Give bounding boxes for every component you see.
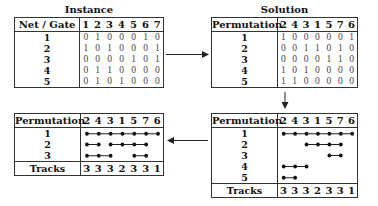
solution-row: 51100000	[212, 76, 358, 88]
instance-col-header: 1	[80, 18, 92, 32]
packed-interval-dot	[97, 143, 101, 147]
packed-interval-dot	[97, 132, 101, 136]
packed-col-header: 4	[92, 114, 104, 128]
intervals-track-count: 3	[323, 184, 334, 198]
packed-tracks-label: Tracks	[15, 162, 81, 176]
packed-segments	[81, 150, 164, 162]
solution-row: 20011010	[212, 43, 358, 54]
arrow-right-icon	[166, 50, 210, 60]
solution-cell: 0	[312, 65, 323, 76]
instance-row-label: 3	[15, 54, 80, 65]
instance-cell: 1	[104, 65, 116, 76]
instance-cell: 0	[128, 43, 140, 54]
intervals-interval-dot	[293, 165, 297, 169]
packed-interval-dot	[109, 132, 113, 136]
solution-cell: 0	[300, 54, 311, 65]
packed-interval-dot	[121, 132, 125, 136]
packed-interval-dot	[121, 143, 125, 147]
instance-cell: 0	[140, 76, 152, 88]
packed-interval-dot	[85, 154, 89, 158]
solution-cell: 1	[335, 54, 346, 65]
solution-cell: 1	[300, 65, 311, 76]
instance-cell: 1	[140, 32, 152, 44]
instance-col-header: 2	[92, 18, 104, 32]
solution-cell: 0	[289, 32, 300, 44]
solution-col-header: 5	[323, 18, 334, 32]
arrow-left-icon	[167, 136, 209, 146]
packed-interval-dot	[132, 154, 136, 158]
instance-cell: 0	[152, 32, 164, 44]
instance-cell: 0	[116, 43, 128, 54]
instance-cell: 0	[152, 76, 164, 88]
intervals-track-count: 3	[289, 184, 300, 198]
intervals-interval-dot	[327, 143, 331, 147]
packed-row: 3	[15, 150, 164, 162]
packed-row-header: Permutation	[15, 114, 81, 128]
instance-cell: 0	[128, 65, 140, 76]
packed-track-count: 3	[140, 162, 152, 176]
solution-cell: 0	[323, 76, 334, 88]
instance-col-header: 5	[128, 18, 140, 32]
packed-interval-dot	[156, 132, 160, 136]
intervals-interval-dot	[316, 132, 320, 136]
intervals-header-row: Permutation 2431576	[212, 114, 358, 128]
instance-row-header: Net / Gate	[15, 18, 80, 32]
solution-cell: 0	[289, 43, 300, 54]
instance-cell: 0	[80, 65, 92, 76]
intervals-row-label: 2	[212, 139, 278, 150]
solution-col-header: 2	[278, 18, 289, 32]
packed-col-header: 3	[104, 114, 116, 128]
packed-col-header: 1	[116, 114, 128, 128]
solution-cell: 0	[323, 43, 334, 54]
intervals-col-header: 2	[278, 114, 289, 128]
intervals-col-header: 5	[323, 114, 334, 128]
intervals-segments	[278, 128, 358, 140]
instance-col-header: 4	[116, 18, 128, 32]
intervals-track-count: 3	[335, 184, 346, 198]
packed-interval-dot	[85, 132, 89, 136]
solution-row: 30000110	[212, 54, 358, 65]
intervals-interval-dot	[316, 143, 320, 147]
intervals-interval-cell	[278, 139, 358, 150]
instance-cell: 0	[128, 76, 140, 88]
intervals-interval-dot	[327, 154, 331, 158]
instance-row: 30000101	[15, 54, 164, 65]
packed-interval-dot	[109, 143, 113, 147]
solution-cell: 0	[346, 65, 357, 76]
solution-cell: 0	[335, 32, 346, 44]
intervals-row: 4	[212, 161, 358, 172]
packed-interval-dot	[144, 132, 148, 136]
packed-col-header: 7	[140, 114, 152, 128]
instance-cell: 0	[128, 32, 140, 44]
packed-track-count: 3	[128, 162, 140, 176]
intervals-row-label: 3	[212, 150, 278, 161]
instance-cell: 0	[104, 76, 116, 88]
intervals-segments	[278, 139, 358, 150]
solution-cell: 0	[346, 43, 357, 54]
packed-col-header: 2	[81, 114, 93, 128]
instance-title: Instance	[14, 4, 164, 16]
instance-cell: 0	[140, 43, 152, 54]
instance-cell: 0	[104, 32, 116, 44]
solution-col-header: 4	[289, 18, 300, 32]
instance-row: 21010001	[15, 43, 164, 54]
packed-track-count: 3	[81, 162, 93, 176]
intervals-interval-dot	[305, 132, 309, 136]
packed-track-count: 3	[104, 162, 116, 176]
packed-segments	[81, 139, 164, 150]
instance-cell: 0	[80, 76, 92, 88]
intervals-segments	[278, 161, 358, 172]
packed-table: Permutation 2431576 123 Tracks 3332331	[14, 113, 164, 176]
solution-cell: 0	[300, 32, 311, 44]
intervals-col-header: 7	[335, 114, 346, 128]
instance-cell: 1	[92, 65, 104, 76]
instance-cell: 0	[92, 54, 104, 65]
intervals-interval-dot	[305, 165, 309, 169]
intervals-row-label: 5	[212, 172, 278, 184]
solution-cell: 1	[335, 43, 346, 54]
solution-cell: 0	[335, 76, 346, 88]
packed-row-label: 3	[15, 150, 81, 162]
solution-cell: 0	[289, 54, 300, 65]
instance-header-row: Net / Gate 1234567	[15, 18, 164, 32]
instance-cell: 1	[152, 43, 164, 54]
